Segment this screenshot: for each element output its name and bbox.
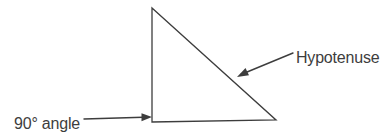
hypotenuse-arrowhead-icon (237, 68, 249, 77)
right-angle-arrowhead-icon (142, 113, 153, 121)
right-angle-arrow-line (84, 117, 143, 119)
hypotenuse-arrow-line (241, 53, 293, 75)
right-angle-label: 90° angle (14, 115, 80, 132)
diagram-svg: Hypotenuse 90° angle (0, 0, 388, 140)
right-triangle (152, 8, 276, 122)
triangle-diagram: Hypotenuse 90° angle (0, 0, 388, 140)
hypotenuse-label: Hypotenuse (296, 49, 380, 66)
